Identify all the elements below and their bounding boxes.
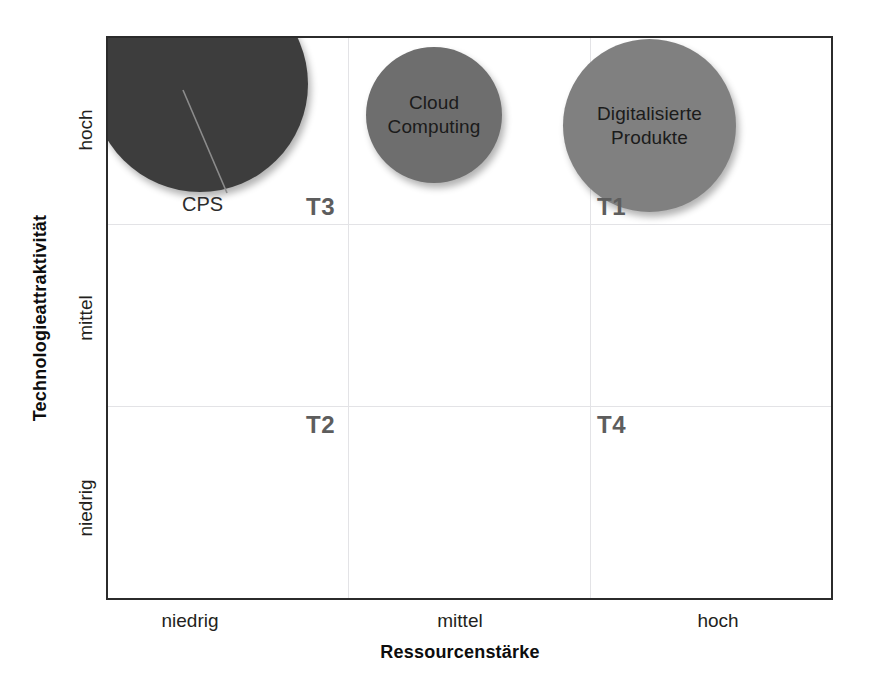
quadrant-code-t2: T2 (306, 411, 335, 439)
gridline-horizontal-1 (108, 224, 831, 225)
bubble-cps[interactable] (106, 36, 308, 192)
bubble-digitalisierte-produkte[interactable]: Digitalisierte Produkte (563, 39, 736, 212)
bubble-cloud-computing-label: Cloud Computing (382, 91, 487, 139)
quadrant-code-t1: T1 (597, 193, 626, 221)
y-tick-hoch: hoch (75, 109, 97, 150)
x-axis-title: Ressourcenstärke (380, 642, 539, 663)
y-axis-title: Technologieattraktivität (30, 215, 51, 422)
quadrant-code-t3: T3 (306, 193, 335, 221)
y-tick-niedrig: niedrig (75, 479, 97, 536)
bubble-digitalisierte-produkte-label: Digitalisierte Produkte (591, 102, 708, 150)
gridline-horizontal-2 (108, 406, 831, 407)
y-tick-mittel: mittel (75, 295, 97, 340)
x-tick-niedrig: niedrig (161, 610, 218, 632)
cps-callout-label: CPS (182, 193, 223, 216)
x-tick-mittel: mittel (437, 610, 482, 632)
bubble-chart-figure: Technologieattraktivität hoch mittel nie… (0, 0, 872, 683)
bubble-cloud-computing[interactable]: Cloud Computing (366, 47, 502, 183)
x-tick-hoch: hoch (697, 610, 738, 632)
quadrant-code-t4: T4 (597, 411, 626, 439)
gridline-vertical-1 (348, 38, 349, 598)
plot-area: Cloud Computing Digitalisierte Produkte … (106, 36, 833, 600)
